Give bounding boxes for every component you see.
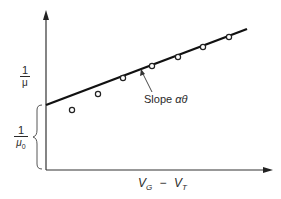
data-point [120, 75, 125, 80]
data-point [95, 91, 100, 96]
x-axis-arrow-icon [263, 167, 273, 173]
intercept-label-inverse-mu0: 1 μ0 [12, 124, 30, 153]
mobility-plot: 1 μ 1 μ0 Slope αθ VG − VT [0, 0, 281, 199]
data-point [200, 44, 205, 49]
intercept-brace [33, 105, 42, 169]
y-axis-arrow-icon [43, 10, 49, 20]
slope-pointer [142, 72, 152, 92]
slope-label: Slope αθ [144, 93, 187, 105]
y-axis-label-inverse-mu: 1 μ [18, 64, 32, 89]
data-point [149, 63, 154, 68]
data-point [175, 54, 180, 59]
data-point [226, 34, 231, 39]
x-axis-label: VG − VT [138, 176, 187, 192]
data-point [69, 107, 74, 112]
plot-canvas [0, 0, 281, 199]
